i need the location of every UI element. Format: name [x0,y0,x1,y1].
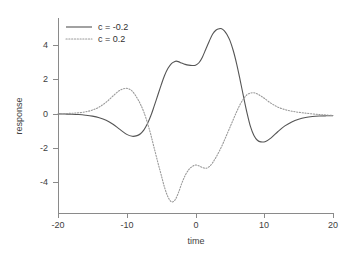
x-tick-labels: -20 -10 0 10 20 [51,220,338,230]
y-tick-label-1: 2 [43,74,48,84]
x-tick-label-3: 10 [259,220,269,230]
legend-label-0: c = -0.2 [98,22,128,32]
x-axis-ticks [58,213,333,218]
y-tick-labels: 4 2 0 -2 -4 [40,40,48,187]
y-tick-label-3: -2 [40,143,48,153]
x-tick-label-1: -10 [120,220,133,230]
series-line-c-minus-0-2 [58,28,333,141]
y-axis-ticks [53,45,58,182]
axes-group [53,18,333,218]
chart-figure: -20 -10 0 10 20 4 2 0 -2 -4 time respons… [0,0,351,253]
y-axis-title: response [14,97,24,134]
legend-label-1: c = 0.2 [98,34,125,44]
x-axis-title: time [187,236,204,246]
x-tick-label-2: 0 [193,220,198,230]
line-chart: -20 -10 0 10 20 4 2 0 -2 -4 time respons… [0,0,351,253]
y-tick-label-2: 0 [43,109,48,119]
series-line-c-plus-0-2 [58,88,333,202]
axis-lines [58,18,333,213]
legend: c = -0.2 c = 0.2 [66,22,128,44]
x-tick-label-4: 20 [328,220,338,230]
y-tick-label-0: 4 [43,40,48,50]
x-tick-label-0: -20 [51,220,64,230]
y-tick-label-4: -4 [40,177,48,187]
